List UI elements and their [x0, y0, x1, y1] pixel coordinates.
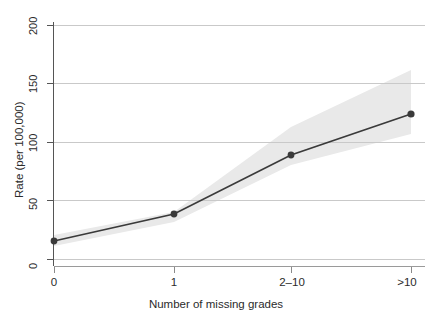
- y-axis-title: Rate (per 100,000): [0, 137, 74, 149]
- y-tick-text: 0: [27, 247, 39, 269]
- x-tick-text: 2–10: [279, 276, 305, 288]
- y-axis-title-text: Rate (per 100,000): [13, 88, 25, 198]
- x-tick-text: >10: [397, 276, 417, 288]
- y-tick-label-50: 50: [22, 193, 44, 205]
- y-tick-text: 150: [27, 71, 39, 93]
- y-tick-label-200: 200: [22, 18, 44, 30]
- x-tick-text: 1: [171, 276, 177, 288]
- x-axis-title-text: Number of missing grades: [149, 298, 283, 310]
- x-axis-title: Number of missing grades: [0, 298, 432, 310]
- data-point-marker: [288, 152, 295, 159]
- y-tick-label-150: 150: [22, 76, 44, 88]
- x-tick-label-gt-10: >10: [386, 276, 428, 288]
- y-tick-text: 50: [27, 188, 39, 210]
- x-tick-label-1: 1: [154, 276, 194, 288]
- x-tick-text: 0: [51, 276, 57, 288]
- y-tick-text: 200: [27, 13, 39, 35]
- data-point-marker: [51, 238, 58, 245]
- data-point-marker: [407, 110, 414, 117]
- x-tick-label-2-10: 2–10: [266, 276, 318, 288]
- rate-by-missing-grades-chart: 200 150 100 50 0 Rate (per 100,000) 0 1 …: [0, 0, 432, 326]
- confidence-interval-band: [54, 70, 411, 246]
- x-axis-ticks: [55, 267, 412, 274]
- data-point-marker: [171, 211, 178, 218]
- y-tick-label-0: 0: [22, 252, 44, 264]
- x-tick-label-0: 0: [34, 276, 74, 288]
